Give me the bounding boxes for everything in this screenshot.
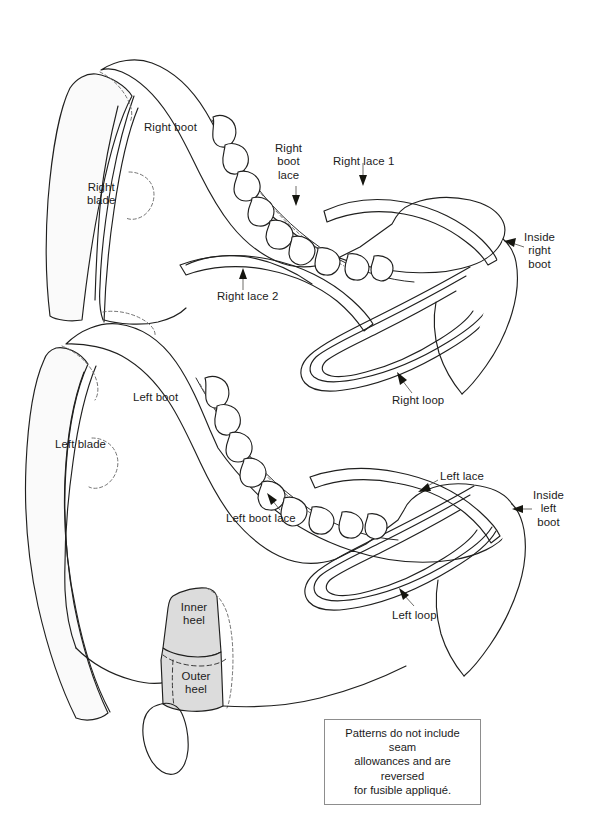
right-loop-inner-1 [310,276,488,382]
lace-bead [315,248,340,275]
right-loop-shape [301,267,492,391]
left-boot-sole [143,703,188,774]
right-blade-seam [126,172,154,219]
lace-bead [371,256,393,281]
lace-bead [223,144,249,175]
label-right-loop: Right loop [392,394,444,407]
label-inside-left-boot: Inside left boot [533,489,564,529]
lace-bead [226,432,252,462]
caption-line-2: allowances and are reversed [331,754,474,782]
lace-bead [309,507,334,534]
label-left-lace: Left lace [440,470,484,483]
label-left-boot: Left boot [133,391,178,404]
label-right-boot: Right boot [144,121,197,134]
label-left-boot-lace: Left boot lace [226,512,296,525]
caption-box: Patterns do not include seam allowances … [324,719,481,805]
label-right-lace-1: Right lace 1 [333,155,394,168]
arrow-right-lace-2 [239,268,247,279]
label-inside-right-boot: Inside right boot [524,231,555,271]
arrow-left-loop [399,588,409,600]
left-boot-bottom-edge [223,666,406,707]
lace-bead [339,512,363,538]
label-inner-heel: Inner heel [172,601,216,628]
lace-bead [258,481,285,510]
arrow-right-boot-lace [292,195,300,206]
skate-illustration [0,0,601,818]
arrow-right-lace-1 [359,175,367,186]
label-right-lace-2: Right lace 2 [217,290,278,303]
lace-bead [205,376,229,408]
right-boot-inner-line [104,308,186,324]
lace-bead [365,514,387,539]
lace-bead [234,171,260,201]
label-right-blade: Right blade [87,181,115,208]
left-boot-shape [66,324,515,564]
lace-bead [215,405,241,436]
right-loop-inner-2 [322,291,473,376]
label-left-blade: Left blade [55,438,106,451]
label-outer-heel: Outer heel [174,670,218,697]
label-left-loop: Left loop [392,609,437,622]
caption-line-1: Patterns do not include seam [331,726,474,754]
label-right-boot-lace: Right boot lace [275,142,302,182]
skate-pattern-diagram: Right boot Right blade Right boot lace R… [0,0,601,818]
inside-left-boot-edge [436,580,464,676]
lace-bead [213,115,236,147]
arrow-left-lace [418,483,431,492]
caption-line-3: for fusible appliqué. [331,783,474,797]
